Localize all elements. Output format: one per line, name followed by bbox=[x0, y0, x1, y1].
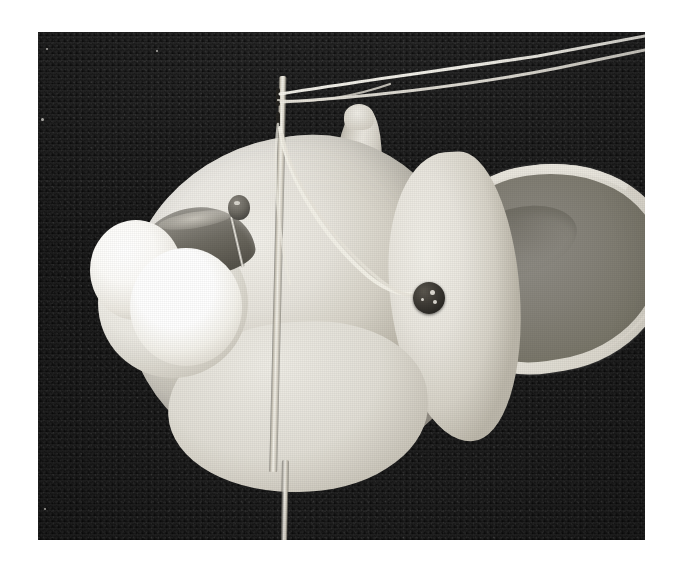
needle-eye-hole bbox=[276, 112, 280, 128]
light-speck bbox=[44, 508, 46, 510]
light-speck bbox=[41, 118, 44, 121]
straight-pin-bead-head bbox=[228, 195, 250, 220]
page-root bbox=[0, 0, 682, 566]
light-speck bbox=[46, 48, 48, 50]
bead-eye-highlight bbox=[430, 290, 435, 295]
photograph bbox=[38, 32, 645, 540]
needle-eye-hole bbox=[276, 88, 280, 106]
bead-eye bbox=[413, 282, 445, 314]
light-speck bbox=[156, 50, 158, 52]
bead-eye-highlight bbox=[433, 300, 437, 304]
needle-point-below bbox=[280, 460, 289, 540]
pom-pom-front bbox=[130, 248, 242, 366]
bead-eye-highlight bbox=[421, 298, 424, 301]
mouse-nose-tip bbox=[344, 104, 374, 130]
pin-head-highlight bbox=[234, 201, 240, 205]
